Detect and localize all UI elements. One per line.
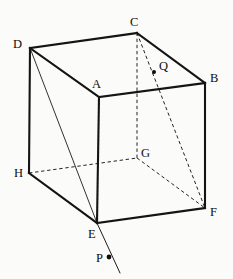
ray-group <box>97 223 120 273</box>
point-P-dot <box>107 255 112 260</box>
hidden-edges-group <box>29 33 205 208</box>
marked-points-group <box>107 70 156 259</box>
edge-A-B <box>99 83 205 97</box>
diagonal-D-E <box>30 48 97 223</box>
label-E: E <box>88 227 96 241</box>
geometry-figure: A B C D E F G H Q P <box>0 0 233 279</box>
solid-edges-group <box>29 33 205 223</box>
label-H: H <box>14 166 23 180</box>
label-B: B <box>210 71 218 85</box>
label-P: P <box>96 251 103 265</box>
label-G: G <box>141 146 150 160</box>
edge-D-H <box>29 48 30 173</box>
edge-E-F <box>97 208 205 223</box>
construction-lines-group <box>30 33 205 223</box>
label-C: C <box>130 15 138 29</box>
point-Q-dot <box>152 70 156 74</box>
edge-H-E <box>29 173 97 223</box>
cuboid-diagram-canvas: A B C D E F G H Q P <box>0 0 233 279</box>
label-F: F <box>210 205 217 219</box>
label-D: D <box>13 37 22 51</box>
vertex-labels-group: A B C D E F G H <box>13 15 218 241</box>
label-Q: Q <box>159 59 168 73</box>
edge-D-C <box>30 33 137 48</box>
edge-H-G <box>29 158 137 173</box>
label-A: A <box>92 77 101 91</box>
edge-A-E <box>97 97 99 223</box>
ray-E-through-P <box>97 223 120 273</box>
edge-D-A <box>30 48 99 97</box>
